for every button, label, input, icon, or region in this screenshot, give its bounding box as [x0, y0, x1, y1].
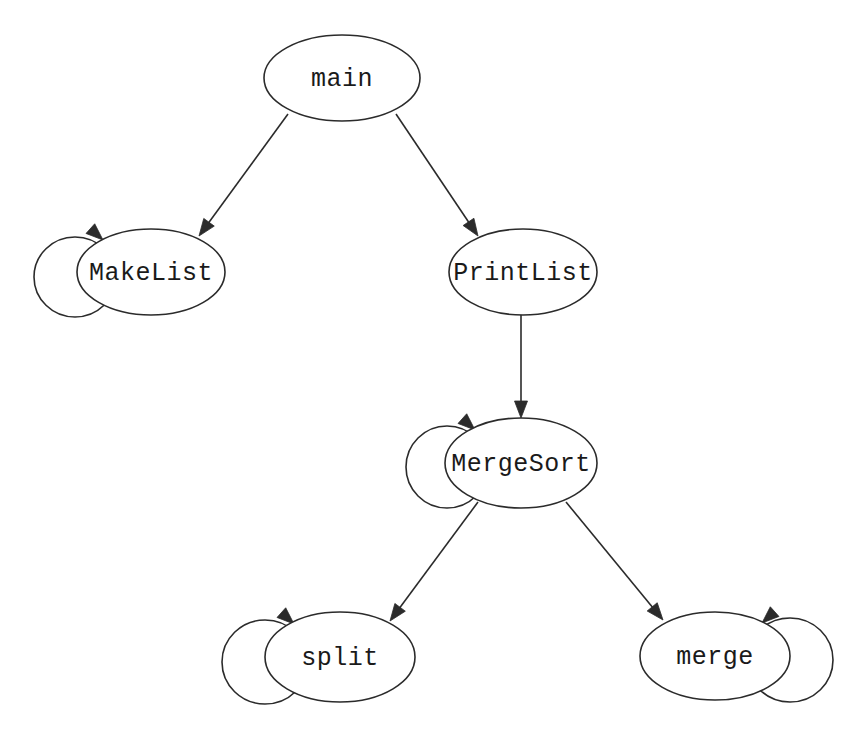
- edge-line: [566, 502, 655, 610]
- node-label: split: [301, 644, 379, 673]
- edge-layer: [199, 114, 663, 621]
- node-layer: mainMakeListPrintListMergeSortsplitmerge: [77, 35, 790, 702]
- node-label: MakeList: [89, 259, 213, 288]
- edge-MergeSort-to-split[interactable]: [390, 502, 478, 621]
- edge-arrowhead: [390, 603, 405, 621]
- edge-line: [396, 114, 471, 225]
- node-split[interactable]: split: [265, 612, 415, 702]
- edge-arrowhead: [515, 401, 528, 418]
- edge-main-to-PrintList[interactable]: [396, 114, 478, 236]
- node-label: main: [311, 65, 373, 94]
- call-graph-svg: mainMakeListPrintListMergeSortsplitmerge: [0, 0, 862, 734]
- call-graph-canvas: mainMakeListPrintListMergeSortsplitmerge: [0, 0, 862, 734]
- node-label: MergeSort: [451, 450, 591, 479]
- node-main[interactable]: main: [264, 35, 420, 121]
- edge-arrowhead: [463, 218, 478, 236]
- edge-arrowhead: [647, 603, 663, 620]
- node-MakeList[interactable]: MakeList: [77, 229, 225, 315]
- self-loop-arrowhead: [86, 224, 103, 240]
- edge-arrowhead: [199, 218, 214, 236]
- edge-PrintList-to-MergeSort[interactable]: [515, 315, 528, 418]
- node-PrintList[interactable]: PrintList: [449, 229, 597, 315]
- edge-line: [398, 502, 478, 611]
- edge-MergeSort-to-merge[interactable]: [566, 502, 663, 620]
- node-merge[interactable]: merge: [640, 612, 790, 700]
- edge-main-to-MakeList[interactable]: [199, 114, 288, 236]
- node-label: merge: [676, 643, 754, 672]
- edge-line: [207, 114, 288, 225]
- node-MergeSort[interactable]: MergeSort: [445, 418, 597, 508]
- node-label: PrintList: [453, 259, 593, 288]
